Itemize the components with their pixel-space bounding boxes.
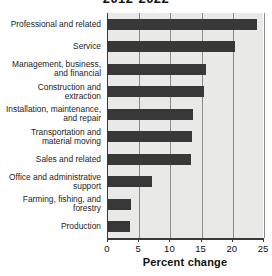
category-label: Construction andextraction bbox=[0, 81, 104, 104]
bar-row bbox=[108, 103, 263, 126]
bar-row bbox=[108, 81, 263, 104]
bar-row bbox=[108, 216, 263, 239]
x-tick-label-10: 10 bbox=[159, 243, 179, 254]
category-label: Service bbox=[0, 36, 104, 59]
category-label-line: extraction bbox=[38, 92, 101, 101]
bar bbox=[108, 109, 193, 120]
category-label: Transportation andmaterial moving bbox=[0, 126, 104, 149]
x-tick-20 bbox=[232, 238, 233, 242]
category-label-line: Production bbox=[61, 222, 101, 231]
x-tick-label-15: 15 bbox=[191, 243, 211, 254]
category-label: Management, business,and financial bbox=[0, 58, 104, 81]
bar-row bbox=[108, 13, 263, 36]
chart-title: 2012-2022 bbox=[0, 0, 272, 5]
x-tick-0 bbox=[107, 238, 108, 242]
category-label: Production bbox=[0, 216, 104, 239]
x-tick-25 bbox=[263, 238, 264, 242]
category-label-line: and financial bbox=[12, 69, 101, 78]
x-axis-title: Percent change bbox=[107, 256, 263, 268]
category-label-line: Sales and related bbox=[36, 155, 101, 164]
category-axis-labels: Professional and relatedServiceManagemen… bbox=[0, 13, 104, 238]
bar-row bbox=[108, 36, 263, 59]
bar bbox=[108, 19, 257, 30]
bar-row bbox=[108, 171, 263, 194]
category-label: Installation, maintenance,and repair bbox=[0, 103, 104, 126]
category-label-line: material moving bbox=[31, 137, 101, 146]
chart-figure: 2012-2022 Professional and relatedServic… bbox=[0, 0, 272, 276]
category-label-line: Service bbox=[73, 42, 101, 51]
bar-row bbox=[108, 58, 263, 81]
bar bbox=[108, 131, 192, 142]
category-label: Sales and related bbox=[0, 148, 104, 171]
bar bbox=[108, 64, 206, 75]
category-label-line: support bbox=[9, 182, 101, 191]
plot-area bbox=[107, 13, 263, 238]
gridline-25 bbox=[264, 13, 265, 238]
bar-row bbox=[108, 193, 263, 216]
x-tick-15 bbox=[201, 238, 202, 242]
x-tick-10 bbox=[169, 238, 170, 242]
bar-row bbox=[108, 126, 263, 149]
category-label: Farming, fishing, andforestry bbox=[0, 193, 104, 216]
bar bbox=[108, 221, 130, 232]
category-label: Office and administrativesupport bbox=[0, 171, 104, 194]
category-label-line: forestry bbox=[23, 204, 101, 213]
bar bbox=[108, 154, 191, 165]
bar bbox=[108, 199, 131, 210]
x-tick-label-5: 5 bbox=[128, 243, 148, 254]
bar-row bbox=[108, 148, 263, 171]
x-tick-label-25: 25 bbox=[253, 243, 272, 254]
x-tick-5 bbox=[138, 238, 139, 242]
category-label-line: and repair bbox=[6, 114, 101, 123]
x-axis-line bbox=[107, 238, 263, 240]
x-tick-label-0: 0 bbox=[97, 243, 117, 254]
bar-series bbox=[108, 13, 263, 238]
category-label: Professional and related bbox=[0, 13, 104, 36]
bar bbox=[108, 176, 152, 187]
bar bbox=[108, 41, 235, 52]
x-tick-label-20: 20 bbox=[222, 243, 242, 254]
category-label-line: Professional and related bbox=[11, 20, 101, 29]
bar bbox=[108, 86, 204, 97]
